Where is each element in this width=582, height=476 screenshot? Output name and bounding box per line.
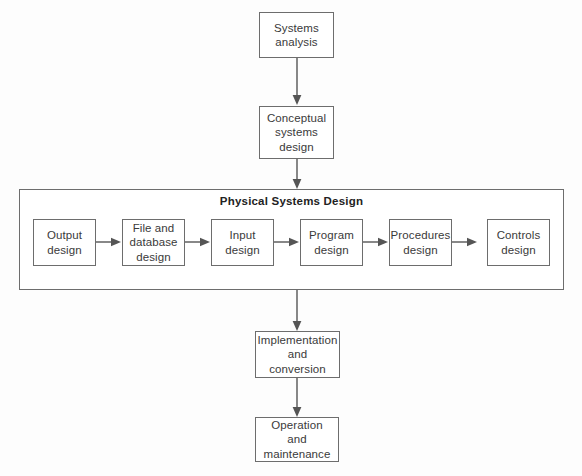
- node-systems-analysis: Systems analysis: [259, 12, 334, 58]
- node-input-design-label: Input design: [225, 228, 260, 257]
- connector-analysis-to-conceptual: [289, 58, 305, 106]
- node-conceptual-systems-design-label: Conceptual systems design: [267, 111, 326, 155]
- connector-implementation-to-operation: [289, 378, 305, 418]
- node-implementation-and-conversion-label: Implementation and conversion: [257, 333, 337, 377]
- node-procedures-design-label: Procedures design: [391, 228, 451, 257]
- connector-conceptual-to-physical: [289, 159, 305, 190]
- node-program-design-label: Program design: [309, 228, 354, 257]
- node-controls-design: Controls design: [487, 219, 550, 266]
- node-systems-analysis-label: Systems analysis: [274, 21, 319, 50]
- node-input-design: Input design: [211, 219, 274, 266]
- node-operation-and-maintenance: Operation and maintenance: [255, 417, 339, 462]
- node-procedures-design: Procedures design: [389, 219, 452, 266]
- node-implementation-and-conversion: Implementation and conversion: [255, 331, 340, 378]
- node-conceptual-systems-design: Conceptual systems design: [259, 106, 334, 159]
- node-file-and-database-design-label: File and database design: [129, 221, 177, 265]
- node-operation-and-maintenance-label: Operation and maintenance: [264, 418, 331, 462]
- node-output-design-label: Output design: [47, 228, 82, 257]
- group-physical-systems-design-title: Physical Systems Design: [19, 195, 564, 207]
- node-program-design: Program design: [300, 219, 363, 266]
- node-file-and-database-design: File and database design: [122, 219, 185, 266]
- node-output-design: Output design: [33, 219, 96, 266]
- connector-physical-to-implementation: [289, 290, 305, 332]
- flowchart-canvas: Systems analysis Conceptual systems desi…: [0, 0, 582, 476]
- node-controls-design-label: Controls design: [497, 228, 541, 257]
